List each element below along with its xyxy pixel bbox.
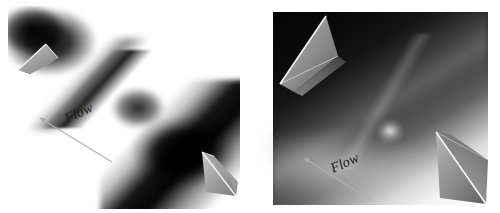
- left-flow-image: Flow: [0, 0, 250, 213]
- right-upper-wedge: [280, 16, 346, 96]
- right-flow-image: Flow: [250, 0, 500, 213]
- left-wedge-geometry: [0, 0, 250, 213]
- figure-container: Flow: [0, 0, 500, 213]
- right-wedge-geometry: [250, 0, 500, 213]
- left-upper-wedge: [18, 44, 58, 74]
- right-lower-wedge: [436, 132, 488, 204]
- right-image-stage: Flow: [250, 0, 500, 213]
- left-image-stage: Flow: [0, 0, 250, 213]
- left-lower-wedge: [202, 152, 238, 196]
